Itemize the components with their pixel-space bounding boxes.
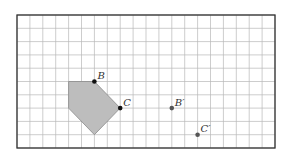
shaded-polygon xyxy=(69,82,121,135)
grid-figure: BCB′C′ xyxy=(0,0,282,155)
point-B-prime-label: B′ xyxy=(174,97,185,108)
grid-lines xyxy=(17,15,275,148)
point-B-label: B xyxy=(96,70,104,81)
point-C-dot xyxy=(118,106,123,111)
point-C-label: C xyxy=(123,97,131,108)
point-C-prime-dot xyxy=(195,132,200,137)
point-C-prime-label: C′ xyxy=(201,123,212,134)
point-B-dot xyxy=(92,79,97,84)
point-B-prime-dot xyxy=(170,106,175,111)
